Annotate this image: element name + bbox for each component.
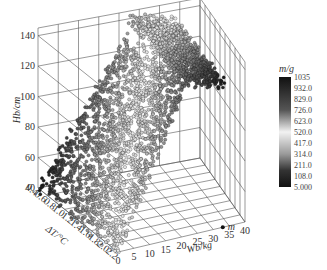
- colorbar-tick: 520.0: [294, 128, 312, 137]
- colorbar-tick: 108.0: [294, 172, 312, 181]
- colorbar-tick: 726.0: [294, 106, 312, 115]
- colorbar-tick: 623.0: [294, 117, 312, 126]
- colorbar-tick: 932.0: [294, 84, 312, 93]
- colorbar-tick: 1035: [294, 73, 310, 82]
- z-tick: 140: [20, 30, 35, 41]
- x-tick: 15: [161, 244, 171, 255]
- scatter-3d-chart: m 4060801001201400.40.60.81.01.21.41.61.…: [0, 0, 327, 270]
- z-tick: 100: [20, 91, 35, 102]
- colorbar: m/g1035932.0829.0726.0623.0520.0417.0314…: [279, 63, 312, 192]
- z-tick: 120: [20, 60, 35, 71]
- colorbar-gradient: [279, 77, 291, 187]
- x-tick: 35: [224, 229, 234, 240]
- x-tick: 40: [240, 225, 250, 236]
- z-axis-label: Hb/cm: [11, 97, 22, 125]
- colorbar-tick: 829.0: [294, 95, 312, 104]
- colorbar-tick: 211.0: [294, 161, 312, 170]
- z-tick: 80: [25, 121, 35, 132]
- x-tick: 5: [131, 251, 136, 262]
- x-axis-label: Wb/kg: [186, 239, 213, 255]
- y-axis-label: ΔT/°C: [43, 222, 70, 247]
- colorbar-tick: 417.0: [294, 139, 312, 148]
- x-tick: 10: [145, 248, 155, 259]
- colorbar-tick: 314.0: [294, 150, 312, 159]
- colorbar-tick: 5.000: [294, 183, 312, 192]
- z-tick: 60: [25, 152, 35, 163]
- x-tick: 0: [116, 255, 121, 266]
- colorbar-label: m/g: [279, 63, 294, 74]
